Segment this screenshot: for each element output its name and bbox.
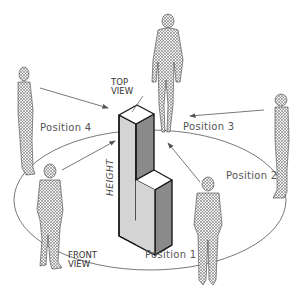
figure-position-4 <box>18 67 35 175</box>
figure-front-viewer <box>37 164 63 269</box>
position-3-label: Position 3 <box>183 122 234 132</box>
block-front-face <box>136 180 155 255</box>
position-2-label: Position 2 <box>226 171 277 181</box>
figure-position-2 <box>273 94 289 198</box>
position-1-label: Position 1 <box>145 250 196 260</box>
block-lower-right-face <box>155 180 172 255</box>
position-4-label: Position 4 <box>40 123 91 133</box>
figure-position-1 <box>194 177 222 285</box>
arrow-position-3 <box>190 110 264 116</box>
arrow-position-1 <box>168 143 200 182</box>
figure-top-viewer <box>152 14 183 132</box>
arrow-position-4 <box>40 88 108 108</box>
front-view-label: FRONT VIEW <box>68 251 97 269</box>
height-label: HEIGHT <box>105 159 115 196</box>
block-upper-right-face <box>136 114 154 180</box>
top-view-label: TOP VIEW <box>111 78 133 96</box>
